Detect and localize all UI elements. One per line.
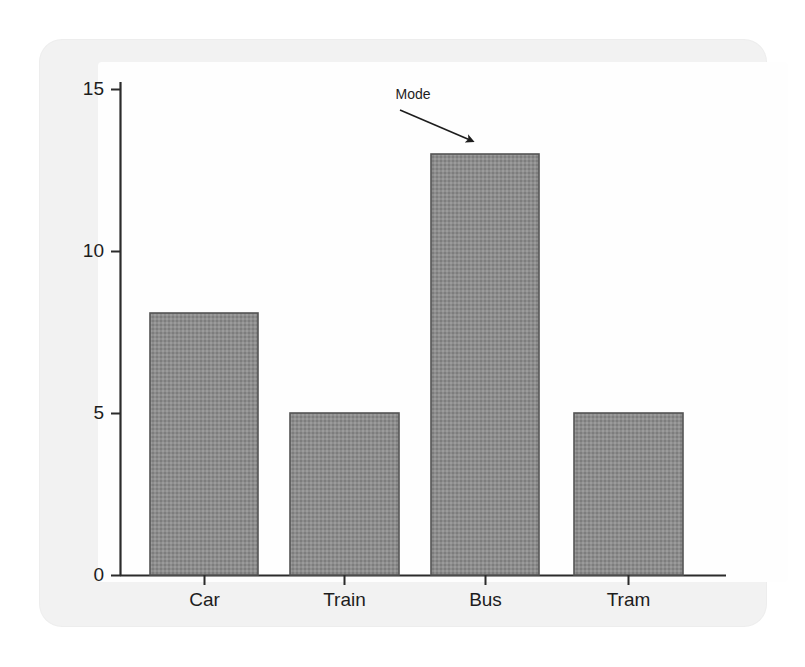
y-tick-label-0: 0: [93, 564, 104, 585]
y-tick-group: 0 5 10 15: [83, 78, 121, 585]
x-tick-label-tram: Tram: [607, 589, 651, 610]
x-tick-label-car: Car: [189, 589, 220, 610]
annotation-mode: Mode: [395, 86, 470, 140]
bar-car[interactable]: [150, 313, 258, 575]
figure-canvas: 0 5 10 15 Car Train Bus Tram: [0, 0, 805, 667]
bar-tram[interactable]: [574, 413, 683, 575]
bar-chart: 0 5 10 15 Car Train Bus Tram: [0, 0, 805, 667]
bars-group: [150, 154, 683, 575]
x-tick-group: Car Train Bus Tram: [189, 575, 650, 610]
annotation-label: Mode: [395, 86, 430, 102]
bar-train[interactable]: [290, 413, 399, 575]
y-tick-label-5: 5: [93, 402, 104, 423]
x-tick-label-bus: Bus: [469, 589, 502, 610]
y-tick-label-15: 15: [83, 78, 104, 99]
y-tick-label-10: 10: [83, 240, 104, 261]
annotation-arrow-line: [400, 110, 470, 140]
bar-bus[interactable]: [431, 154, 539, 575]
x-tick-label-train: Train: [323, 589, 366, 610]
